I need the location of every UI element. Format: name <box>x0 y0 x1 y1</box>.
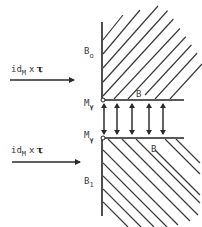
upper-corner-label: Mγ <box>84 98 94 111</box>
lower-boundary-label: B1 <box>84 176 94 189</box>
upper-arrow-label: idMxτ <box>11 63 43 77</box>
lower-edge-label: B <box>151 144 156 154</box>
lower-arrow-label: idMxτ <box>11 144 43 158</box>
double-arrows <box>104 104 163 134</box>
diagram-canvas: idMxτ idMxτ Bo B1 B B Mγ Mγ <box>0 0 202 227</box>
lower-corner-label: Mγ <box>84 130 94 144</box>
upper-edge-label: B <box>136 89 141 99</box>
upper-boundary-label: Bo <box>84 46 94 60</box>
upper-corner-point <box>101 98 105 102</box>
upper-hatched-region <box>103 6 202 99</box>
lower-corner-point <box>101 136 105 140</box>
